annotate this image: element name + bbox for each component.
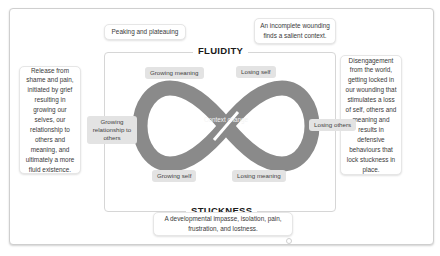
losing-self-label: Losing self xyxy=(236,66,276,78)
growing-self-label: Growing self xyxy=(152,170,196,182)
decorative-dot xyxy=(286,238,292,244)
growing-relationship-label: Growing relationship to others xyxy=(87,116,137,144)
developmental-impasse-text: A developmental impasse, isolation, pain… xyxy=(160,214,286,233)
losing-meaning-label: Losing meaning xyxy=(232,170,286,182)
losing-others-label: Losing others xyxy=(309,119,356,131)
growing-meaning-label: Growing meaning xyxy=(145,67,204,79)
developmental-impasse-card: A developmental impasse, isolation, pain… xyxy=(153,212,293,236)
context-change-label: Context change xyxy=(196,116,256,123)
